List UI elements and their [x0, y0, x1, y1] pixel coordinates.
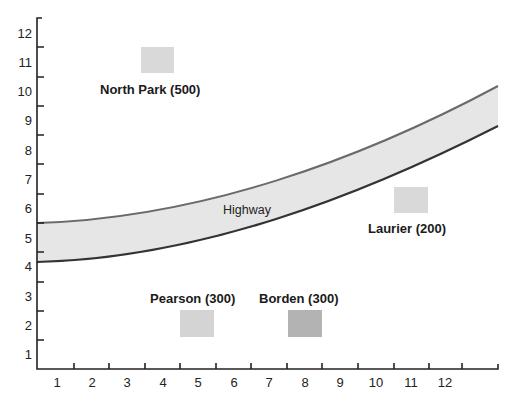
town-laurier-label: Laurier (200) — [368, 221, 446, 236]
town-pearson-marker — [180, 310, 214, 337]
x-tick-label: 9 — [325, 375, 355, 390]
town-north-park-label: North Park (500) — [100, 82, 200, 97]
highway-label: Highway — [223, 203, 271, 217]
town-laurier-marker — [394, 187, 428, 213]
y-tick-label: 12 — [8, 26, 32, 41]
y-tick-label: 8 — [8, 143, 32, 158]
y-tick-label: 3 — [8, 289, 32, 304]
x-tick-label: 7 — [254, 375, 284, 390]
y-tick-label: 5 — [8, 231, 32, 246]
x-tick-label: 12 — [430, 375, 460, 390]
x-tick-label: 6 — [219, 375, 249, 390]
x-tick-label: 4 — [148, 375, 178, 390]
town-pearson-label: Pearson (300) — [150, 291, 235, 306]
y-tick-label: 9 — [8, 113, 32, 128]
y-tick-label: 7 — [8, 172, 32, 187]
y-tick-label: 10 — [8, 84, 32, 99]
y-tick-label: 6 — [8, 201, 32, 216]
x-tick-label: 3 — [112, 375, 142, 390]
y-tick-label: 4 — [8, 259, 32, 274]
town-borden-marker — [288, 310, 322, 337]
y-tick-label: 1 — [8, 347, 32, 362]
x-tick-label: 10 — [361, 375, 391, 390]
x-tick-label: 8 — [290, 375, 320, 390]
x-tick-label: 1 — [42, 375, 72, 390]
x-tick-label: 11 — [396, 375, 426, 390]
town-north-park-marker — [141, 47, 174, 73]
x-tick-label: 2 — [77, 375, 107, 390]
y-tick-label: 11 — [8, 55, 32, 70]
y-tick-label: 2 — [8, 318, 32, 333]
x-tick-label: 5 — [183, 375, 213, 390]
town-borden-label: Borden (300) — [259, 291, 338, 306]
